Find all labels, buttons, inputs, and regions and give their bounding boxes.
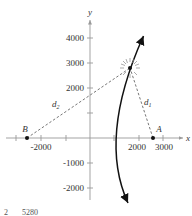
point-b-label: B [22, 124, 28, 134]
d2-dashed-line [27, 68, 130, 138]
y-tick-label-4000: 4000 [66, 33, 85, 43]
point-a-label: A [155, 124, 162, 134]
y-axis-label: y [87, 7, 92, 17]
hyperbola-branch [116, 37, 143, 203]
x-axis-label: x [185, 133, 190, 143]
x-tick-label-neg2000: -2000 [31, 142, 52, 152]
y-tick-label-2000: 2000 [66, 83, 85, 93]
point-b [25, 136, 29, 140]
d1-label: d1 [144, 97, 152, 108]
explosion-point [128, 66, 132, 70]
point-a [151, 136, 155, 140]
x-tick-label-2000: 2000 [128, 142, 147, 152]
y-tick-label-neg1000: -1000 [63, 158, 84, 168]
hyperbola-diagram: -2000 2000 3000 4000 3000 2000 -1000 -20… [0, 0, 192, 216]
x-tick-label-3000: 3000 [155, 142, 174, 152]
cut-off-footer-text: 2 5280 [4, 208, 38, 216]
d2-label: d2 [52, 99, 60, 110]
y-tick-label-3000: 3000 [66, 58, 85, 68]
y-tick-label-neg2000: -2000 [63, 183, 84, 193]
